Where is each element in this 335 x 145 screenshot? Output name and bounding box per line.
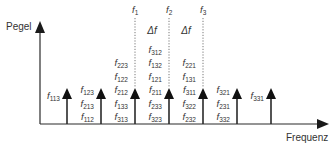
intermod-label-f322: f322 [183,98,197,110]
intermod-label-f311: f311 [183,84,196,96]
arrow-up-icon [164,88,174,99]
intermod-label-f231: f231 [217,98,231,110]
intermod-label-f211: f211 [149,84,162,96]
spectral-line: f321f231f332 [217,84,243,124]
intermod-label-f213: f213 [81,98,95,110]
intermod-label-f221: f221 [183,57,197,69]
spectral-line: f312f132f121f211f233f323 [149,44,175,125]
intermod-label-f212: f212 [115,84,129,96]
intermod-label-f332: f332 [217,111,231,123]
spectral-line: f221f131f311f322f232 [183,57,209,124]
intermod-label-f121: f121 [149,71,163,83]
intermod-label-f331: f331 [251,90,265,102]
intermod-label-f323: f323 [149,111,163,123]
arrow-up-icon [266,88,276,99]
intermod-label-f113: f113 [47,90,60,102]
fundamental-label-f3: f3 [200,4,207,16]
intermod-label-f232: f232 [183,111,197,123]
intermod-label-f112: f112 [81,111,94,123]
delta-f-label: Δf [180,25,192,36]
arrow-up-icon [130,88,140,99]
fundamental-label-f1: f1 [132,4,139,16]
intermod-label-f133: f133 [115,98,129,110]
intermod-label-f312: f312 [149,44,163,56]
intermod-label-f223: f223 [115,57,129,69]
x-axis-arrow-icon [317,119,329,129]
delta-f-label: Δf [146,25,158,36]
spectral-lines: f113f123f213f112f223f122f212f133f313f312… [47,44,276,125]
intermodulation-spectrum-diagram: Pegel Frequenz f1f2f3 ΔfΔf f113f123f213f… [0,0,335,145]
x-axis-label: Frequenz [286,132,328,143]
intermod-label-f122: f122 [115,71,129,83]
y-axis-arrow-icon [35,21,45,33]
intermod-label-f132: f132 [149,57,163,69]
spectral-line: f113 [47,88,72,124]
spectral-line: f123f213f112 [81,84,107,124]
intermod-label-f321: f321 [217,84,231,96]
y-axis: Pegel [6,21,45,124]
intermod-label-f233: f233 [149,98,163,110]
intermod-label-f313: f313 [115,111,129,123]
arrow-up-icon [62,88,72,99]
spectral-line: f331 [251,88,277,124]
arrow-up-icon [96,88,106,99]
y-axis-label: Pegel [6,21,32,32]
spectral-line: f223f122f212f133f313 [115,57,141,124]
arrow-up-icon [198,88,208,99]
intermod-label-f123: f123 [81,84,95,96]
fundamental-label-f2: f2 [166,4,173,16]
arrow-up-icon [232,88,242,99]
intermod-label-f131: f131 [183,71,197,83]
